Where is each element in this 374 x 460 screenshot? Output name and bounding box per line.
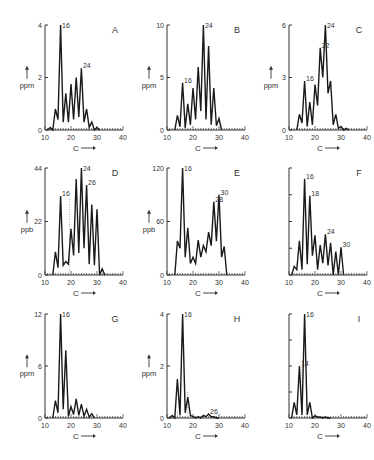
chart-panel-d: 0224410203040Cppb162426D [21, 165, 127, 299]
y-tick-label: 6 [282, 22, 286, 29]
y-tick-label: 0 [38, 127, 42, 134]
arrow-up-icon [147, 354, 151, 358]
peak-label: 14 [301, 360, 309, 367]
panel-letter: C [356, 25, 363, 35]
arrow-up-icon [25, 66, 29, 70]
x-tick-label: 20 [67, 134, 75, 141]
panel-letter: F [356, 168, 362, 178]
x-tick-label: 30 [337, 279, 345, 286]
x-axis-label: C [73, 432, 79, 441]
x-tick-label: 10 [163, 134, 171, 141]
x-tick-label: 40 [119, 279, 127, 286]
peak-label: 28 [215, 196, 223, 203]
y-tick-label: 4 [38, 22, 42, 29]
x-tick-label: 10 [163, 279, 171, 286]
chart-panel-h: 02410203040Cppm1626H [142, 311, 249, 442]
x-axis-label: C [195, 144, 201, 153]
x-tick-label: 20 [189, 279, 197, 286]
x-tick-label: 30 [215, 422, 223, 429]
panel-letter: B [234, 25, 240, 35]
x-tick-label: 20 [67, 422, 75, 429]
y-tick-label: 5 [160, 74, 164, 81]
chart-panel-a: 02410203040Cppm1624A [20, 22, 127, 154]
peak-label: 16 [306, 75, 314, 82]
x-tick-label: 10 [41, 279, 49, 286]
x-tick-label: 10 [41, 134, 49, 141]
y-tick-label: 0 [160, 272, 164, 279]
x-tick-label: 20 [67, 279, 75, 286]
arrow-right-icon [93, 291, 96, 295]
data-series-line [170, 314, 219, 418]
chart-panel-f: 10203040C16182430F [285, 168, 371, 298]
x-tick-label: 40 [119, 134, 127, 141]
chromatogram-figure: 02410203040Cppm1624A051010203040Cppm1624… [0, 0, 374, 460]
chart-panel-e: 06012010203040Cppb162830E [143, 165, 249, 299]
chart-panel-i: 10203040C1416I [285, 311, 371, 441]
x-tick-label: 40 [119, 422, 127, 429]
arrow-right-icon [215, 146, 218, 150]
y-tick-label: 0 [38, 415, 42, 422]
x-tick-label: 10 [285, 279, 293, 286]
peak-label: 16 [184, 311, 192, 318]
arrow-right-icon [337, 291, 340, 295]
x-tick-label: 10 [285, 134, 293, 141]
panel-letter: H [234, 314, 241, 324]
arrow-right-icon [93, 434, 96, 438]
x-tick-label: 40 [241, 279, 249, 286]
peak-label: 18 [311, 190, 319, 197]
x-tick-label: 20 [189, 422, 197, 429]
peak-label: 16 [62, 22, 70, 29]
arrow-up-icon [147, 210, 151, 214]
arrow-right-icon [215, 291, 218, 295]
x-tick-label: 30 [215, 279, 223, 286]
peak-label: 30 [343, 241, 351, 248]
panel-letter: D [112, 168, 119, 178]
y-axis-label: ppm [20, 369, 35, 378]
x-tick-label: 20 [311, 134, 319, 141]
chart-panel-b: 051010203040Cppm1624B [142, 22, 249, 154]
data-series-line [175, 25, 222, 130]
x-tick-label: 30 [93, 134, 101, 141]
data-series-line [48, 25, 100, 130]
x-axis-label: C [317, 289, 323, 298]
peak-label: 16 [184, 165, 192, 172]
y-axis-label: ppm [264, 81, 279, 90]
x-tick-label: 10 [285, 422, 293, 429]
x-axis-label: C [73, 144, 79, 153]
peak-label: 24 [83, 62, 91, 69]
arrow-up-icon [25, 354, 29, 358]
arrow-right-icon [337, 146, 340, 150]
y-tick-label: 4 [160, 311, 164, 318]
data-series-line [53, 314, 95, 418]
x-tick-label: 10 [41, 422, 49, 429]
y-tick-label: 0 [160, 415, 164, 422]
arrow-right-icon [93, 146, 96, 150]
x-tick-label: 40 [363, 134, 371, 141]
chart-panel-g: 061210203040Cppm16G [20, 311, 127, 442]
chart-panel-c: 03610203040Cppm162224C [264, 22, 371, 154]
peak-label: 16 [306, 173, 314, 180]
peak-label: 24 [205, 22, 213, 29]
x-tick-label: 30 [337, 422, 345, 429]
y-tick-label: 60 [156, 218, 164, 225]
peak-label: 22 [322, 42, 330, 49]
x-tick-label: 30 [337, 134, 345, 141]
y-tick-label: 0 [160, 127, 164, 134]
x-axis-label: C [317, 432, 323, 441]
peak-label: 16 [184, 77, 192, 84]
y-tick-label: 2 [160, 363, 164, 370]
y-tick-label: 22 [34, 218, 42, 225]
y-axis-label: ppb [143, 225, 156, 234]
y-tick-label: 120 [152, 165, 164, 172]
peak-label: 24 [83, 165, 91, 172]
panel-letter: A [112, 25, 118, 35]
y-tick-label: 0 [282, 127, 286, 134]
x-tick-label: 30 [93, 279, 101, 286]
panel-letter: I [358, 314, 361, 324]
y-axis-label: ppm [142, 81, 157, 90]
y-tick-label: 0 [38, 272, 42, 279]
y-tick-label: 44 [34, 165, 42, 172]
x-tick-label: 10 [163, 422, 171, 429]
peak-label: 24 [327, 228, 335, 235]
x-tick-label: 20 [189, 134, 197, 141]
